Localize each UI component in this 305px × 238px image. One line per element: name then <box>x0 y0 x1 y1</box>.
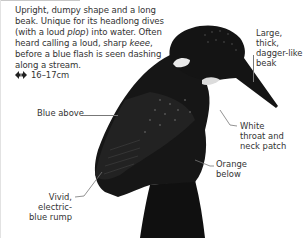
label-orange-below: Orange below <box>216 159 247 179</box>
label-line: Orange <box>216 159 247 169</box>
label-rump: Vivid, electric- blue rump <box>16 192 72 222</box>
label-line: below <box>216 169 247 179</box>
label-line: blue rump <box>16 212 72 222</box>
label-line: Vivid, electric- <box>16 192 72 212</box>
